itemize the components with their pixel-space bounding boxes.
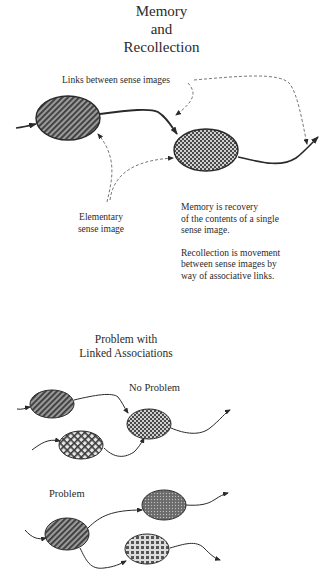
recollection-text-2: between sense images by (181, 259, 277, 271)
memory-text-2: of the contents of a single (181, 214, 279, 226)
recollection-text-1: Recollection is movement (181, 248, 280, 260)
p-ellipse-d (45, 518, 89, 550)
elementary-label-2: sense image (76, 224, 126, 236)
np-ellipse-c (127, 409, 171, 439)
title-line-1: Memory (0, 2, 323, 21)
recollection-text-3: way of associative links. (181, 271, 274, 283)
p-ellipse-e (142, 490, 186, 520)
associative-link-arrow (100, 110, 177, 134)
top-diagram (16, 76, 318, 202)
title-line-3: Recollection (0, 38, 323, 57)
no-problem-label: No Problem (129, 382, 180, 393)
sense-image-ellipse-2 (174, 129, 238, 171)
problem-diagram (25, 490, 228, 568)
p-ellipse-f (125, 534, 169, 564)
memory-text-3: sense image. (181, 225, 230, 237)
elementary-pointer-right (110, 158, 173, 200)
elementary-pointer-up (98, 134, 112, 202)
sense-image-ellipse-1 (36, 96, 100, 140)
incoming-link-arrow (16, 124, 36, 128)
no-problem-diagram (17, 390, 230, 459)
memory-text-1: Memory is recovery (181, 202, 258, 214)
links-pointer-left (176, 83, 193, 115)
section-title-line-2: Linked Associations (0, 346, 252, 360)
section-title-line-1: Problem with (0, 332, 252, 346)
title-line-2: and (0, 20, 323, 39)
elementary-label-1: Elementary (76, 212, 126, 224)
np-ellipse-b (59, 431, 103, 459)
problem-label: Problem (49, 488, 85, 499)
links-label: Links between sense images (62, 75, 170, 87)
np-ellipse-a (30, 390, 74, 418)
